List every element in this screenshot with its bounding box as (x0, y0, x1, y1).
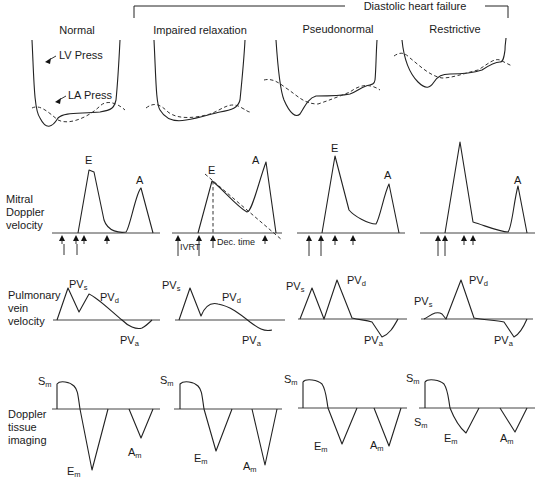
dec-time-label: Dec. time (217, 237, 255, 247)
svg-text:Pulmonary: Pulmonary (8, 289, 61, 301)
pulmonary-vein-pseudonormal: PVs PVd PVa (286, 274, 407, 348)
doppler-tissue-row-label: Doppler tissue imaging (8, 408, 47, 446)
a-m-label: Am (500, 432, 514, 446)
mitral-doppler-pseudonormal: E A (297, 142, 405, 256)
a-m-label: Am (370, 439, 384, 453)
pv-d-label: PVd (222, 291, 241, 305)
svg-text:imaging: imaging (8, 434, 47, 446)
column-title-pseudonormal: Pseudonormal (303, 23, 374, 35)
svg-text:vein: vein (8, 302, 28, 314)
svg-text:velocity: velocity (8, 315, 45, 327)
pulmonary-vein-impaired-relaxation: PVs PVd PVa (162, 279, 285, 348)
svg-text:tissue: tissue (8, 421, 37, 433)
s-m-label: Sm (160, 374, 174, 388)
peak-e-label: E (85, 154, 92, 166)
e-m-label: Em (194, 452, 208, 466)
pv-a-label: PVa (242, 334, 262, 348)
svg-text:Mitral: Mitral (6, 193, 33, 205)
peak-a-label: A (384, 169, 392, 181)
la-press-label: LA Press (68, 89, 113, 101)
e-m-label: Em (67, 465, 81, 479)
peak-e-label: E (208, 164, 215, 176)
lv-press-label: LV Press (59, 49, 103, 61)
pressure-curves-impaired-relaxation (146, 40, 250, 121)
pv-a-label: PVa (494, 334, 514, 348)
peak-e-label: E (331, 142, 338, 154)
pv-d-label: PVd (469, 274, 488, 288)
e-m-label: Em (314, 440, 328, 454)
pressure-curves-pseudonormal (264, 40, 380, 115)
s-m-label-lower: Sm (414, 416, 428, 430)
svg-text:velocity: velocity (6, 219, 43, 231)
pv-s-label: PVs (414, 295, 433, 309)
doppler-tissue-pseudonormal: Sm Em Am (284, 373, 407, 454)
pulmonary-vein-row-label: Pulmonary vein velocity (8, 289, 61, 327)
diastolic-function-diagram: Diastolic heart failure Normal Impaired … (0, 0, 537, 479)
timing-arrows-icon (59, 235, 110, 255)
s-m-label-upper: Sm (406, 372, 420, 386)
timing-arrows-icon (435, 235, 476, 256)
peak-a-label: A (252, 154, 260, 166)
pv-s-label: PVs (69, 278, 88, 292)
column-title-impaired-relaxation: Impaired relaxation (153, 24, 247, 36)
pv-a-label: PVa (120, 334, 140, 348)
s-m-label: Sm (284, 373, 298, 387)
mitral-doppler-restrictive: A (420, 142, 535, 256)
pv-d-label: PVd (347, 274, 366, 288)
pressure-curves-restrictive (394, 38, 512, 87)
la-press-arrow-icon (55, 96, 66, 104)
timing-arrows-icon (306, 235, 356, 256)
mitral-doppler-row-label: Mitral Doppler velocity (6, 193, 45, 231)
doppler-tissue-impaired-relaxation: Sm Em Am (160, 374, 282, 474)
svg-text:Doppler: Doppler (6, 206, 45, 218)
group-label: Diastolic heart failure (364, 0, 467, 12)
svg-text:Doppler: Doppler (8, 408, 47, 420)
mitral-doppler-normal: E A (52, 154, 160, 255)
pv-s-label: PVs (286, 280, 305, 294)
a-m-label: Am (128, 446, 142, 460)
pv-d-label: PVd (100, 291, 119, 305)
peak-a-label: A (136, 174, 144, 186)
ivrt-label: IVRT (180, 242, 201, 252)
pressure-curves-normal: LV Press LA Press (32, 40, 125, 126)
doppler-tissue-normal: Sm Em Am (38, 375, 160, 479)
a-m-label: Am (243, 460, 257, 474)
pv-a-label: PVa (364, 334, 384, 348)
pulmonary-vein-restrictive: PVs PVd PVa (414, 274, 533, 348)
e-m-label: Em (444, 432, 458, 446)
mitral-doppler-impaired-relaxation: E A IVRT Dec. time (172, 154, 282, 256)
doppler-tissue-restrictive: Sm Sm Em Am (406, 372, 535, 446)
pv-s-label: PVs (162, 279, 181, 293)
peak-a-label: A (514, 174, 522, 186)
s-m-label: Sm (38, 375, 52, 389)
diastolic-heart-failure-bracket: Diastolic heart failure (134, 0, 508, 18)
pulmonary-vein-normal: PVs PVd PVa (53, 278, 160, 348)
lv-press-arrow-icon (45, 56, 56, 64)
column-title-restrictive: Restrictive (429, 23, 480, 35)
column-title-normal: Normal (59, 24, 94, 36)
